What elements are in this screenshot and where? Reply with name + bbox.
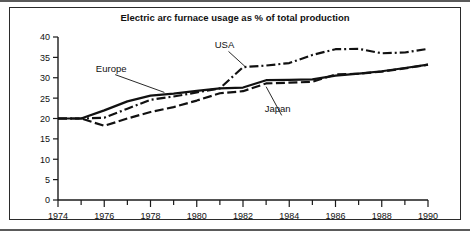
series-annotations-group: EuropeUSAJapan <box>96 39 291 115</box>
leader-line-europe <box>115 75 164 93</box>
series-line-usa <box>58 49 428 119</box>
data-series-group <box>58 49 428 126</box>
series-line-japan <box>58 65 428 126</box>
y-tick-label: 30 <box>40 73 50 83</box>
chart-figure: Electric arc furnace usage as % of total… <box>0 0 470 231</box>
x-axis: 197419761978198019821984198619881990 <box>48 200 438 221</box>
y-tick-label: 0 <box>45 195 50 205</box>
y-tick-label: 10 <box>40 155 50 165</box>
x-tick-label: 1990 <box>418 211 438 221</box>
series-label-japan: Japan <box>265 103 291 114</box>
y-tick-label: 20 <box>40 114 50 124</box>
chart-title: Electric arc furnace usage as % of total… <box>120 12 349 23</box>
x-tick-label: 1978 <box>140 211 160 221</box>
x-tick-label: 1980 <box>187 211 207 221</box>
leader-line-usa <box>229 51 246 66</box>
y-tick-label: 5 <box>45 175 50 185</box>
y-tick-label: 15 <box>40 134 50 144</box>
line-chart-svg: Electric arc furnace usage as % of total… <box>0 0 470 231</box>
series-label-usa: USA <box>215 39 235 50</box>
series-label-europe: Europe <box>96 63 127 74</box>
y-tick-label: 25 <box>40 94 50 104</box>
x-tick-label: 1974 <box>48 211 68 221</box>
x-tick-label: 1984 <box>279 211 299 221</box>
x-tick-label: 1986 <box>325 211 345 221</box>
y-axis: 0510152025303540 <box>40 32 58 205</box>
y-tick-label: 40 <box>40 32 50 42</box>
x-tick-label: 1976 <box>94 211 114 221</box>
x-tick-label: 1988 <box>372 211 392 221</box>
x-tick-label: 1982 <box>233 211 253 221</box>
y-tick-label: 35 <box>40 53 50 63</box>
